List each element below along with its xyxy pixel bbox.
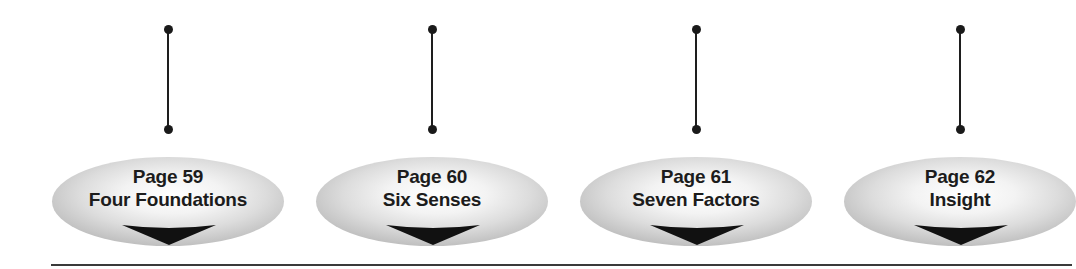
section-title: Insight [844,188,1076,211]
connector-line [695,29,697,129]
connector-line [431,29,433,129]
connector-line [167,29,169,129]
node-label: Page 62 Insight [844,165,1076,211]
page-number: Page 61 [580,165,812,188]
baseline-divider [51,264,1072,266]
page-number: Page 59 [52,165,284,188]
section-title: Four Foundations [52,188,284,211]
dot-icon [956,25,965,34]
dot-icon [956,125,965,134]
node-label: Page 59 Four Foundations [52,165,284,211]
dot-icon [692,25,701,34]
dot-icon [692,125,701,134]
dot-icon [428,25,437,34]
page-number: Page 62 [844,165,1076,188]
dot-icon [428,125,437,134]
down-arrow-icon [914,224,1008,246]
down-arrow-icon [650,224,744,246]
dot-icon [164,25,173,34]
connector-line [959,29,961,129]
down-arrow-icon [122,224,216,246]
node-page-60[interactable]: Page 60 Six Senses [316,0,548,269]
node-label: Page 61 Seven Factors [580,165,812,211]
page-number: Page 60 [316,165,548,188]
down-arrow-icon [386,224,480,246]
node-page-62[interactable]: Page 62 Insight [844,0,1076,269]
dot-icon [164,125,173,134]
node-page-59[interactable]: Page 59 Four Foundations [52,0,284,269]
node-page-61[interactable]: Page 61 Seven Factors [580,0,812,269]
section-title: Seven Factors [580,188,812,211]
node-label: Page 60 Six Senses [316,165,548,211]
section-title: Six Senses [316,188,548,211]
